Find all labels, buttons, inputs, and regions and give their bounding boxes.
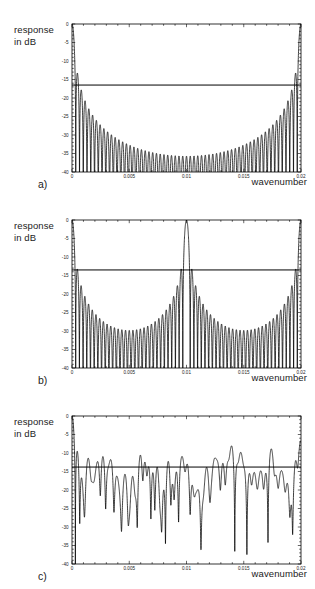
- svg-text:-15: -15: [62, 469, 69, 474]
- svg-text:-40: -40: [62, 170, 69, 175]
- svg-text:-25: -25: [62, 114, 69, 119]
- plot-area-b: 0-5-10-15-20-25-30-35-4000.0050.010.0150…: [0, 196, 315, 392]
- svg-text:-5: -5: [64, 40, 69, 45]
- svg-text:0.015: 0.015: [238, 370, 250, 375]
- svg-text:0.01: 0.01: [182, 566, 191, 571]
- panel-a: response in dB 0-5-10-15-20-25-30-35-400…: [0, 0, 315, 196]
- svg-text:0: 0: [66, 218, 69, 223]
- svg-text:0.015: 0.015: [238, 566, 250, 571]
- svg-text:0: 0: [71, 370, 74, 375]
- svg-text:-30: -30: [62, 329, 69, 334]
- svg-text:-15: -15: [62, 273, 69, 278]
- plot-area-a: 0-5-10-15-20-25-30-35-4000.0050.010.0150…: [0, 0, 315, 196]
- svg-text:0.01: 0.01: [182, 370, 191, 375]
- svg-text:-35: -35: [62, 543, 69, 548]
- svg-text:0.005: 0.005: [124, 370, 136, 375]
- svg-text:-20: -20: [62, 292, 69, 297]
- plot-area-c: 0-5-10-15-20-25-30-35-4000.0050.010.0150…: [0, 392, 315, 588]
- svg-text:-5: -5: [64, 432, 69, 437]
- svg-text:0.015: 0.015: [238, 174, 250, 179]
- svg-text:-15: -15: [62, 77, 69, 82]
- svg-text:-10: -10: [62, 255, 69, 260]
- svg-text:-40: -40: [62, 562, 69, 567]
- svg-text:-20: -20: [62, 96, 69, 101]
- svg-text:0.01: 0.01: [182, 174, 191, 179]
- svg-text:-35: -35: [62, 347, 69, 352]
- x-axis-label-c: wavenumber: [252, 568, 307, 579]
- panel-tag-b: b): [38, 374, 47, 386]
- svg-text:-25: -25: [62, 310, 69, 315]
- svg-text:-5: -5: [64, 236, 69, 241]
- svg-text:-30: -30: [62, 133, 69, 138]
- svg-text:0: 0: [71, 566, 74, 571]
- svg-text:0: 0: [66, 414, 69, 419]
- panel-b: response in dB 0-5-10-15-20-25-30-35-400…: [0, 196, 315, 392]
- panel-c: response in dB 0-5-10-15-20-25-30-35-400…: [0, 392, 315, 588]
- panel-tag-c: c): [38, 570, 47, 582]
- svg-text:0: 0: [66, 22, 69, 27]
- svg-text:0: 0: [71, 174, 74, 179]
- svg-text:-25: -25: [62, 506, 69, 511]
- svg-text:-10: -10: [62, 451, 69, 456]
- svg-text:-35: -35: [62, 151, 69, 156]
- panel-tag-a: a): [38, 178, 47, 190]
- x-axis-label-a: wavenumber: [252, 176, 307, 187]
- svg-text:-40: -40: [62, 366, 69, 371]
- svg-text:-20: -20: [62, 488, 69, 493]
- svg-text:0.005: 0.005: [124, 174, 136, 179]
- svg-text:0.005: 0.005: [124, 566, 136, 571]
- svg-text:-30: -30: [62, 525, 69, 530]
- x-axis-label-b: wavenumber: [252, 372, 307, 383]
- svg-text:-10: -10: [62, 59, 69, 64]
